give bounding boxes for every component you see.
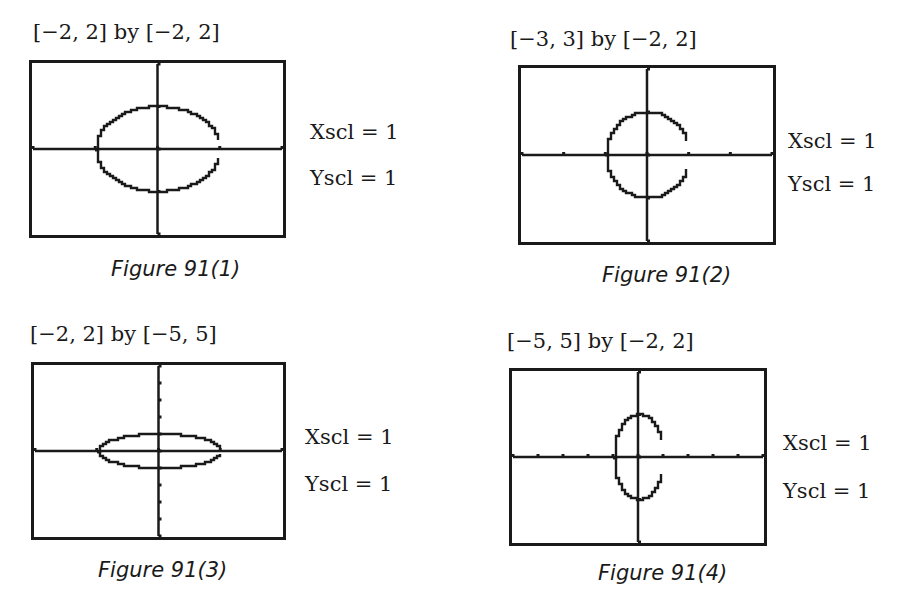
window-label: [−2, 2] by [−2, 2] [33, 22, 220, 43]
xscl-label: Xscl = 1 [788, 131, 877, 152]
curve-upper-half [605, 113, 686, 155]
graph-screen [509, 368, 767, 546]
yscl-label: Yscl = 1 [305, 474, 392, 495]
yscl-label: Yscl = 1 [310, 168, 397, 189]
figure-caption: Figure 91(2) [602, 265, 731, 286]
graph-screen [31, 362, 286, 540]
xscl-label: Xscl = 1 [783, 433, 872, 454]
window-label: [−3, 3] by [−2, 2] [510, 29, 697, 50]
xscl-label: Xscl = 1 [310, 122, 399, 143]
curve-lower-half [605, 155, 686, 197]
graph-screen [518, 65, 776, 245]
window-label: [−2, 2] by [−5, 5] [30, 324, 217, 345]
yscl-label: Yscl = 1 [788, 174, 875, 195]
figure-caption: Figure 91(4) [598, 563, 727, 584]
window-label: [−5, 5] by [−2, 2] [507, 331, 694, 352]
figure-caption: Figure 91(1) [111, 259, 240, 280]
xscl-label: Xscl = 1 [305, 427, 394, 448]
figure-caption: Figure 91(3) [98, 560, 227, 581]
graph-screen [29, 60, 286, 238]
yscl-label: Yscl = 1 [783, 481, 870, 502]
